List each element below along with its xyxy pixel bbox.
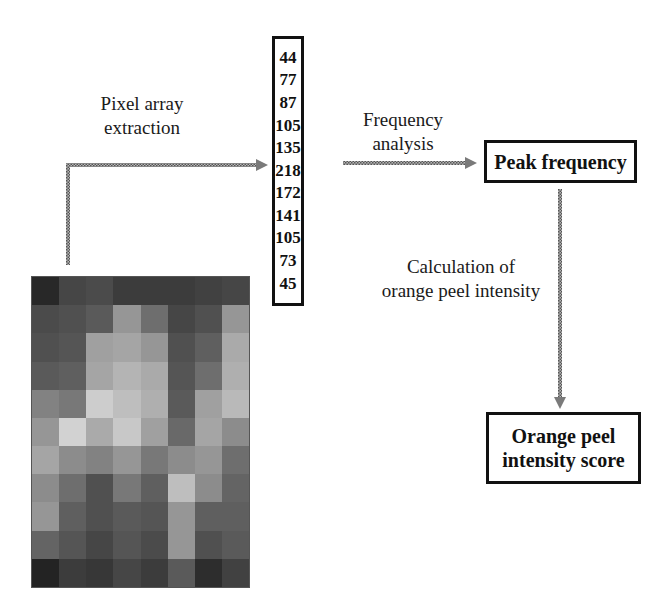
pixel-cell [59,305,86,333]
pixel-cell [59,531,86,559]
pixel-cell [195,333,222,361]
peak-frequency-text: Peak frequency [494,150,626,174]
calculation-label-line2: orange peel intensity [368,279,554,303]
pixel-cell [59,474,86,502]
score-text-line2: intensity score [502,448,624,472]
pixel-cell [32,333,59,361]
pixel-cell [195,305,222,333]
pixel-cell [195,362,222,390]
pixel-cell [32,502,59,530]
pixel-cell [222,305,249,333]
pixel-value: 141 [275,205,301,228]
pixel-cell [141,362,168,390]
frequency-analysis-label-line1: Frequency [348,108,458,132]
extraction-arrow [66,159,268,265]
pixel-cell [32,446,59,474]
score-text-line1: Orange peel [512,424,616,448]
pixel-cell [59,446,86,474]
pixel-cell [86,502,113,530]
pixel-cell [86,333,113,361]
pixel-extraction-label-line1: Pixel array [82,92,202,116]
pixel-cell [168,390,195,418]
pixel-value: 135 [275,137,301,160]
pixel-values-box: 44 77 87 105 135 218 172 141 105 73 45 [272,36,304,306]
pixel-cell [141,446,168,474]
pixel-cell [141,474,168,502]
pixel-cell [86,474,113,502]
pixel-cell [59,418,86,446]
pixel-cell [195,559,222,587]
pixel-cell [222,502,249,530]
pixel-cell [59,559,86,587]
pixel-cell [168,559,195,587]
pixel-cell [141,559,168,587]
pixel-cell [222,531,249,559]
pixel-cell [32,362,59,390]
pixel-cell [86,362,113,390]
pixel-cell [141,531,168,559]
pixel-cell [195,418,222,446]
pixel-cell [168,531,195,559]
pixel-cell [141,418,168,446]
pixel-cell [222,277,249,305]
pixel-cell [113,559,140,587]
pixel-cell [86,418,113,446]
pixel-cell [86,446,113,474]
pixel-cell [222,474,249,502]
frequency-analysis-arrow [343,157,477,169]
pixel-cell [113,362,140,390]
pixel-cell [86,531,113,559]
pixel-cell [59,333,86,361]
pixel-cell [222,559,249,587]
pixel-cell [168,474,195,502]
pixel-cell [32,390,59,418]
pixel-cell [195,446,222,474]
pixel-cell [113,333,140,361]
pixel-cell [168,502,195,530]
pixel-cell [168,305,195,333]
pixel-value: 218 [275,160,301,183]
pixel-value: 77 [280,69,297,92]
pixel-cell [141,277,168,305]
pixel-cell [59,277,86,305]
pixel-cell [59,502,86,530]
pixel-cell [168,446,195,474]
pixel-cell [32,474,59,502]
pixel-cell [113,474,140,502]
calculation-label-line1: Calculation of [368,255,554,279]
pixel-cell [113,446,140,474]
pixel-cell [32,277,59,305]
pixel-cell [222,362,249,390]
pixel-cell [222,390,249,418]
pixel-cell [222,418,249,446]
pixel-cell [195,531,222,559]
pixel-cell [195,502,222,530]
pixel-cell [86,559,113,587]
pixel-cell [222,333,249,361]
pixel-cell [32,418,59,446]
pixel-cell [168,362,195,390]
pixel-cell [141,390,168,418]
pixelated-image [31,276,250,588]
pixel-cell [113,418,140,446]
pixel-value: 45 [280,273,297,296]
pixel-value: 87 [280,92,297,115]
pixel-cell [113,390,140,418]
pixel-cell [168,418,195,446]
pixel-value: 105 [275,227,301,250]
pixel-value: 44 [280,47,297,70]
pixel-cell [86,305,113,333]
calculation-arrow [554,189,566,409]
pixel-cell [32,559,59,587]
pixel-cell [86,390,113,418]
frequency-analysis-label-line2: analysis [348,132,458,156]
frequency-analysis-label: Frequency analysis [348,108,458,156]
pixel-extraction-label: Pixel array extraction [82,92,202,140]
pixel-cell [59,362,86,390]
pixel-value: 172 [275,182,301,205]
pixel-cell [113,502,140,530]
pixel-cell [32,305,59,333]
score-box: Orange peel intensity score [486,412,641,484]
pixel-value: 73 [280,250,297,273]
pixel-cell [113,277,140,305]
